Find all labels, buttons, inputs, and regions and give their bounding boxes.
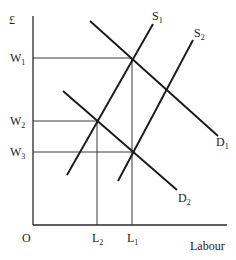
curve-label-d2: D2 <box>178 191 191 207</box>
supply-curve-s2 <box>118 40 193 181</box>
wage-label-w1: W1 <box>10 51 25 67</box>
y-axis-label: £ <box>9 13 15 27</box>
origin-label: O <box>22 231 31 245</box>
curve-label-s2: S2 <box>194 26 205 42</box>
x-axis-label: Labour <box>190 239 225 253</box>
quantity-label-l2: L2 <box>92 231 103 247</box>
curve-label-s1: S1 <box>152 9 163 25</box>
labour-market-diagram: £ O Labour W1 W2 W3 L2 L1 S1 S2 D1 D2 <box>0 0 236 260</box>
curve-label-d1: D1 <box>216 135 229 151</box>
wage-label-w2: W2 <box>10 114 25 130</box>
wage-label-w3: W3 <box>10 145 25 161</box>
demand-curve-d2 <box>63 91 177 190</box>
quantity-label-l1: L1 <box>127 231 138 247</box>
